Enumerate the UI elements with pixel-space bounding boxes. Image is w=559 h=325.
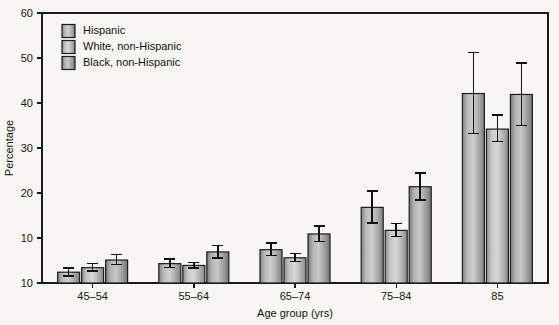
bar-chart: 10102030405060 45–5455–6465–7475–8485Age… — [0, 0, 559, 325]
x-tick-label: 55–64 — [179, 290, 210, 302]
chart-figure: 10102030405060 45–5455–6465–7475–8485Age… — [0, 0, 559, 325]
legend-label: White, non-Hispanic — [83, 40, 182, 52]
y-tick-label: 10 — [21, 277, 33, 289]
x-tick-label: 75–84 — [381, 290, 412, 302]
x-axis-title: Age group (yrs) — [257, 307, 333, 319]
legend-swatch — [62, 57, 75, 70]
legend-swatch — [62, 41, 75, 54]
y-tick-label: 20 — [21, 187, 33, 199]
y-tick-label: 50 — [21, 52, 33, 64]
y-tick-label: 10 — [21, 232, 33, 244]
legend-label: Hispanic — [83, 24, 126, 36]
x-tick-label: 65–74 — [280, 290, 311, 302]
y-tick-label: 60 — [21, 7, 33, 19]
legend-swatch — [62, 25, 75, 38]
x-tick-label: 85 — [491, 290, 503, 302]
legend-label: Black, non-Hispanic — [83, 56, 181, 68]
bar — [409, 187, 431, 283]
y-axis-title: Percentage — [3, 120, 15, 176]
bar — [486, 129, 508, 283]
x-tick-label: 45–54 — [77, 290, 108, 302]
bar — [385, 230, 407, 283]
y-tick-label: 40 — [21, 97, 33, 109]
y-tick-label: 30 — [21, 142, 33, 154]
